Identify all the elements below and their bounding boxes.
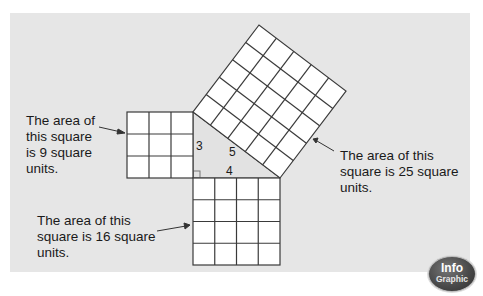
callout-right: The area of this square is 25 square uni… (340, 148, 459, 196)
callout-left: The area of this square is 9 square unit… (26, 113, 95, 177)
infographic-badge: Info Graphic (428, 256, 476, 292)
side-label-3: 3 (196, 139, 203, 153)
arrow-bottom (157, 226, 186, 231)
side-label-4: 4 (226, 164, 233, 178)
arrow-right (317, 141, 334, 151)
square-3x3 (127, 112, 193, 178)
square-4x4 (193, 178, 280, 265)
side-label-5: 5 (229, 145, 236, 159)
callout-bottom: The area of this square is 16 square uni… (37, 213, 156, 261)
